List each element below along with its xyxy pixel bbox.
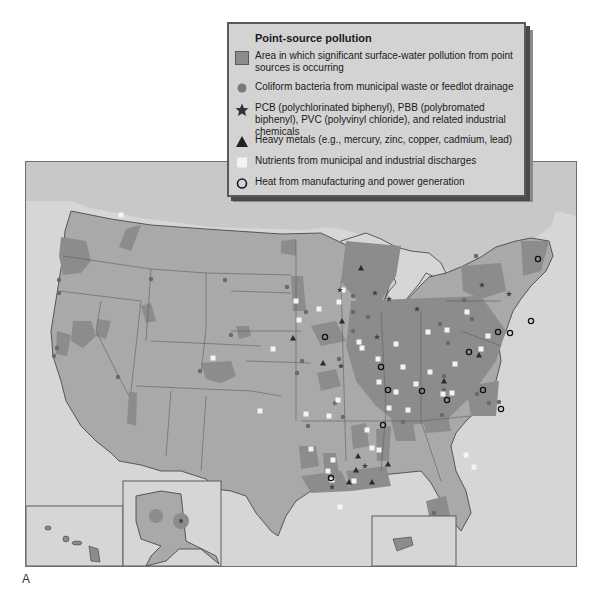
nutrient-square-icon [304,412,309,417]
coliform-dot-icon [337,357,341,361]
nutrient-square-icon [357,340,362,345]
nutrient-square-icon [317,307,322,312]
heat-ring-icon [528,318,533,323]
nutrient-square-icon [326,469,331,474]
us-map [26,162,576,566]
coliform-dot-icon [401,420,405,424]
nutrient-square-icon [394,342,399,347]
coliform-dot-icon [440,413,444,417]
coliform-dot-icon [351,294,355,298]
coliform-dot-icon [462,298,466,302]
coliform-dot-icon [446,341,450,345]
coliform-dot-icon [116,375,120,379]
nutrient-square-icon [211,356,216,361]
coliform-dot-icon [487,401,491,405]
coliform-dot-icon [52,354,56,358]
legend-title: Point-source pollution [255,32,372,44]
nutrient-square-icon [365,428,370,433]
nutrient-square-icon [426,330,431,335]
nutrient-square-icon [414,382,419,387]
coliform-dot-icon [229,333,233,337]
nutrient-square-icon [336,398,341,403]
coliform-dot-icon [198,369,202,373]
nutrient-square-icon [453,362,458,367]
coliform-dot-icon [304,310,308,314]
triangle-icon [235,135,249,149]
nutrient-square-icon [370,446,375,451]
nutrient-square-icon [387,406,392,411]
coliform-dot-icon [470,317,474,321]
coliform-dot-icon [497,400,501,404]
heat-ring-icon [498,406,503,411]
nutrient-square-icon [465,310,470,315]
heat-ring-icon [507,330,512,335]
pollution-map [25,161,577,567]
nutrient-square-icon [401,365,406,370]
nutrient-square-icon [450,391,455,396]
nutrient-square-icon [377,380,382,385]
nutrient-square-icon [297,318,302,323]
nutrient-square-icon [360,346,365,351]
dot-icon [235,82,249,96]
coliform-dot-icon [351,329,355,333]
nutrient-square-icon [464,453,469,458]
nutrient-square-icon [428,370,433,375]
coliform-dot-icon [149,277,153,281]
coliform-dot-icon [55,346,59,350]
coliform-dot-icon [442,374,446,378]
nutrient-square-icon [479,347,484,352]
nutrient-square-icon [486,334,491,339]
coliform-dot-icon [366,315,370,319]
legend-panel: Point-source pollution Area in which sig… [227,22,526,197]
coliform-dot-icon [351,310,355,314]
figure-label: A [22,572,30,586]
nutrient-square-icon [394,390,399,395]
coliform-dot-icon [438,322,442,326]
coliform-dot-icon [57,291,61,295]
nutrient-square-icon [337,300,342,305]
nutrient-square-icon [338,505,343,510]
nutrient-square-icon [445,328,450,333]
nutrient-square-icon [271,347,276,352]
coliform-dot-icon [475,392,479,396]
nutrient-square-icon [352,479,357,484]
nutrient-square-icon [406,408,411,413]
white-square-icon [235,156,249,170]
coliform-dot-icon [57,278,61,282]
nutrient-square-icon [331,458,336,463]
coliform-dot-icon [223,278,227,282]
coliform-dot-icon [306,424,310,428]
nutrient-square-icon [309,447,314,452]
nutrient-square-icon [377,448,382,453]
nutrient-square-icon [376,357,381,362]
gray-square-icon [235,51,249,65]
coliform-dot-icon [300,359,304,363]
nutrient-square-icon [258,409,263,414]
coliform-dot-icon [285,285,289,289]
coliform-dot-icon [295,371,299,375]
star-icon [235,103,249,117]
nutrient-square-icon [119,213,124,218]
coliform-dot-icon [432,511,436,515]
nutrient-square-icon [472,465,477,470]
ring-icon [235,177,249,191]
nutrient-square-icon [327,414,332,419]
coliform-dot-icon [341,415,345,419]
nutrient-square-icon [441,392,446,397]
coliform-dot-icon [474,254,478,258]
nutrient-square-icon [294,299,299,304]
